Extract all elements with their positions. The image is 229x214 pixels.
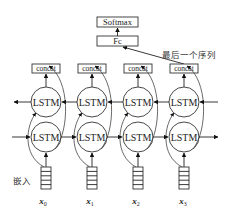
embedding-vector-0 xyxy=(41,167,51,189)
concat-label-1: concat xyxy=(82,64,102,73)
input-label-3: x3 xyxy=(178,196,187,207)
input-label-1: x1 xyxy=(85,196,94,207)
lstm-backward-label-0: LSTM xyxy=(33,97,60,108)
concat-label-0: concat xyxy=(36,64,56,73)
input-label-2: x2 xyxy=(131,196,140,207)
fc-label: Fc xyxy=(113,36,122,46)
lstm-forward-label-3: LSTM xyxy=(171,132,198,143)
lstm-forward-label-2: LSTM xyxy=(125,132,152,143)
timestep-column-3: concat LSTM LSTM x3 xyxy=(166,64,204,207)
timestep-column-0: concat LSTM LSTM x0 xyxy=(28,64,66,207)
last-sequence-label: 最后一个序列 xyxy=(162,50,216,60)
softmax-node: Softmax xyxy=(97,17,138,27)
concat-label-3: concat xyxy=(174,64,194,73)
lstm-backward-label-2: LSTM xyxy=(125,97,152,108)
lstm-backward-label-1: LSTM xyxy=(79,97,106,108)
embedding-vector-2 xyxy=(133,167,143,189)
lstm-forward-label-0: LSTM xyxy=(33,132,60,143)
timestep-column-2: concat LSTM LSTM x2 xyxy=(120,64,158,207)
softmax-label: Softmax xyxy=(103,17,133,27)
timestep-column-1: concat LSTM LSTM x1 xyxy=(74,64,112,207)
embedding-vector-3 xyxy=(179,167,189,189)
embedding-label: 嵌入 xyxy=(13,176,31,186)
input-label-0: x0 xyxy=(38,196,47,207)
lstm-forward-label-1: LSTM xyxy=(79,132,106,143)
fc-node: Fc xyxy=(97,36,138,46)
diagram-canvas: Softmax Fc 最后一个序列 concat LSTM LSTM x0 co… xyxy=(0,0,229,214)
embedding-vector-1 xyxy=(87,167,97,189)
lstm-backward-label-3: LSTM xyxy=(171,97,198,108)
concat-label-2: concat xyxy=(128,64,148,73)
